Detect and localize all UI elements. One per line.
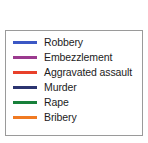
legend-item-label: Aggravated assault <box>44 67 132 78</box>
legend-box: Robbery Embezzlement Aggravated assault … <box>5 30 143 136</box>
legend-item-label: Murder <box>44 82 77 93</box>
legend-item-label: Embezzlement <box>44 52 112 63</box>
line-swatch-icon <box>13 71 37 74</box>
legend-item-label: Rape <box>44 97 69 108</box>
line-swatch-icon <box>13 56 37 59</box>
legend-item-embezzlement[interactable]: Embezzlement <box>6 50 142 65</box>
legend-item-label: Robbery <box>44 37 83 48</box>
line-swatch-icon <box>13 86 37 89</box>
line-swatch-icon <box>13 116 37 119</box>
legend-item-aggravated-assault[interactable]: Aggravated assault <box>6 65 142 80</box>
line-swatch-icon <box>13 101 37 104</box>
legend-item-list: Robbery Embezzlement Aggravated assault … <box>6 31 142 135</box>
legend-item-rape[interactable]: Rape <box>6 95 142 110</box>
legend-item-bribery[interactable]: Bribery <box>6 110 142 125</box>
chart-legend-root: Robbery Embezzlement Aggravated assault … <box>0 0 148 143</box>
legend-item-murder[interactable]: Murder <box>6 80 142 95</box>
line-swatch-icon <box>13 41 37 44</box>
legend-item-label: Bribery <box>44 112 77 123</box>
legend-item-robbery[interactable]: Robbery <box>6 35 142 50</box>
